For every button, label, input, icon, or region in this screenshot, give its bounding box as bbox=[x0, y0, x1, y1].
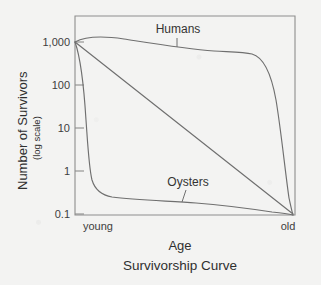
y-axis-title: Number of Survivors bbox=[15, 71, 30, 190]
survivorship-curve-figure: 1,000 100 10 1 0.1 young old Number of S… bbox=[0, 0, 321, 285]
y-axis-ticks bbox=[75, 42, 84, 214]
y-tick-label-0.1: 0.1 bbox=[55, 208, 70, 220]
y-axis-subtitle: (log scale) bbox=[31, 116, 42, 160]
series-label-humans: Humans bbox=[156, 22, 201, 36]
leader-line-oysters bbox=[182, 190, 186, 202]
chart-canvas: 1,000 100 10 1 0.1 young old Number of S… bbox=[0, 0, 321, 285]
series-label-oysters: Oysters bbox=[167, 175, 208, 189]
y-tick-label-1000: 1,000 bbox=[42, 36, 70, 48]
figure-caption: Survivorship Curve bbox=[123, 258, 237, 273]
x-tick-label-young: young bbox=[83, 220, 113, 232]
x-axis-title: Age bbox=[168, 238, 191, 253]
x-tick-label-old: old bbox=[281, 220, 296, 232]
y-tick-label-1: 1 bbox=[64, 165, 70, 177]
y-tick-label-100: 100 bbox=[52, 79, 70, 91]
y-tick-label-10: 10 bbox=[58, 122, 70, 134]
